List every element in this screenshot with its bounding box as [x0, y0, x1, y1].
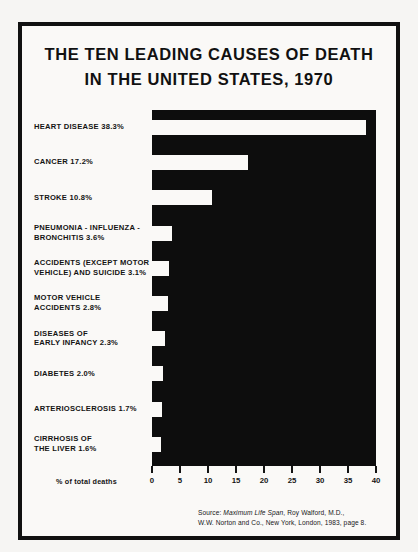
category-label: PNEUMONIA - INFLUENZA -BRONCHITIS 3.6% — [30, 223, 150, 242]
x-axis-tick — [235, 466, 237, 473]
x-axis-tick-label: 15 — [232, 476, 241, 485]
x-axis-tick — [319, 466, 321, 473]
category-label-line: EARLY INFANCY 2.3% — [34, 338, 150, 348]
x-axis-tick-label: 35 — [344, 476, 353, 485]
category-label: ARTERIOSCLEROSIS 1.7% — [30, 404, 150, 414]
category-label: CIRRHOSIS OFTHE LIVER 1.6% — [30, 434, 150, 453]
x-axis-tick — [347, 466, 349, 473]
category-label-line: DISEASES OF — [34, 329, 150, 339]
category-label-line: ACCIDENTS 2.8% — [34, 303, 150, 313]
bar — [152, 296, 168, 311]
source-prefix: Source: — [198, 509, 223, 516]
x-axis-tick-label: 10 — [204, 476, 213, 485]
x-axis-tick — [263, 466, 265, 473]
category-label-line: STROKE 10.8% — [34, 193, 150, 203]
category-label-line: ACCIDENTS (EXCEPT MOTOR — [34, 258, 150, 268]
category-label-line: CANCER 17.2% — [34, 157, 150, 167]
category-label-line: ARTERIOSCLEROSIS 1.7% — [34, 404, 150, 414]
x-axis-tick-label: 25 — [288, 476, 297, 485]
bar — [152, 366, 163, 381]
category-label: CANCER 17.2% — [30, 157, 150, 167]
category-label-column: HEART DISEASE 38.3%CANCER 17.2%STROKE 10… — [30, 110, 150, 466]
x-axis-tick-label: 40 — [372, 476, 381, 485]
category-label: ACCIDENTS (EXCEPT MOTORVEHICLE) AND SUIC… — [30, 258, 150, 277]
category-label-line: HEART DISEASE 38.3% — [34, 122, 150, 132]
bar — [152, 261, 169, 276]
page-title: THE TEN LEADING CAUSES OF DEATH IN THE U… — [22, 42, 396, 92]
category-label: DIABETES 2.0% — [30, 369, 150, 379]
title-line-2: IN THE UNITED STATES, 1970 — [22, 67, 396, 92]
category-label: STROKE 10.8% — [30, 193, 150, 203]
bar-chart-plot-area — [152, 110, 376, 466]
bar — [152, 190, 212, 205]
source-author: , Roy Walford, M.D., — [283, 509, 344, 516]
scanned-page: THE TEN LEADING CAUSES OF DEATH IN THE U… — [0, 0, 418, 552]
x-axis-tick — [375, 466, 377, 473]
x-axis-tick-label: 30 — [316, 476, 325, 485]
category-label: HEART DISEASE 38.3% — [30, 122, 150, 132]
x-axis-tick — [207, 466, 209, 473]
x-axis-tick-label: 20 — [260, 476, 269, 485]
category-label-line: DIABETES 2.0% — [34, 369, 150, 379]
x-axis-tick — [179, 466, 181, 473]
x-axis-tick-label: 0 — [150, 476, 154, 485]
category-label-line: CIRRHOSIS OF — [34, 434, 150, 444]
x-axis-title: % of total deaths — [56, 477, 117, 486]
bar — [152, 402, 162, 417]
figure-frame: THE TEN LEADING CAUSES OF DEATH IN THE U… — [18, 22, 400, 540]
source-book-title: Maximum Life Span — [223, 509, 283, 516]
bar — [152, 331, 165, 346]
category-label: MOTOR VEHICLEACCIDENTS 2.8% — [30, 293, 150, 312]
bar — [152, 155, 248, 170]
bar — [152, 226, 172, 241]
category-label-line: BRONCHITIS 3.6% — [34, 233, 150, 243]
source-publisher: W.W. Norton and Co., New York, London, 1… — [198, 519, 366, 526]
x-axis-tick — [291, 466, 293, 473]
x-axis-tick-label: 5 — [178, 476, 182, 485]
category-label-line: PNEUMONIA - INFLUENZA - — [34, 223, 150, 233]
x-axis-tick — [151, 466, 153, 473]
category-label-line: VEHICLE) AND SUICIDE 3.1% — [34, 268, 150, 278]
source-note: Source: Maximum Life Span, Roy Walford, … — [198, 508, 394, 527]
category-label-line: MOTOR VEHICLE — [34, 293, 150, 303]
title-line-1: THE TEN LEADING CAUSES OF DEATH — [22, 42, 396, 67]
category-label: DISEASES OFEARLY INFANCY 2.3% — [30, 329, 150, 348]
bar — [152, 437, 161, 452]
bar — [152, 120, 366, 135]
x-axis: 0510152025303540 — [152, 466, 376, 500]
category-label-line: THE LIVER 1.6% — [34, 444, 150, 454]
